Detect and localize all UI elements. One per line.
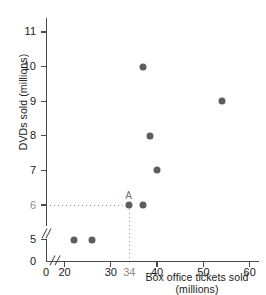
data-point-a: [126, 202, 133, 209]
y-tick-mark: [41, 31, 47, 32]
y-tick-mark: [41, 101, 47, 102]
data-point: [70, 236, 77, 243]
x-axis-line: [46, 261, 259, 262]
data-point: [147, 132, 154, 139]
y-axis-line: [46, 18, 47, 226]
y-tick-label: 0: [6, 256, 36, 267]
guide-line-vertical: [129, 205, 130, 260]
data-point: [140, 202, 147, 209]
data-point: [140, 63, 147, 70]
data-point: [89, 236, 96, 243]
y-tick-mark: [41, 204, 47, 205]
y-tick-label: 6: [6, 200, 36, 211]
y-tick-mark: [41, 239, 47, 240]
y-axis-title: DVDs sold (millions): [17, 27, 29, 177]
x-axis-title: Box office tickets sold (millions): [128, 271, 266, 295]
y-tick-label: 5: [6, 234, 36, 245]
guide-line-horizontal: [46, 205, 129, 206]
x-tick-label: 20: [50, 267, 80, 278]
y-tick-mark: [41, 170, 47, 171]
y-tick-mark: [41, 66, 47, 67]
y-tick-mark: [41, 135, 47, 136]
point-a-annotation-label: A: [125, 191, 132, 201]
data-point: [154, 167, 161, 174]
y-axis-line-lower-segment: [46, 240, 47, 262]
data-point: [218, 98, 225, 105]
